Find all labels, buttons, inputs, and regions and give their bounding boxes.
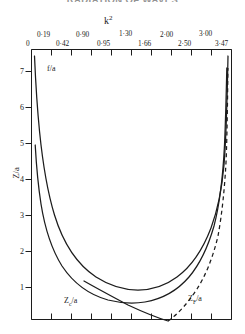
curve-zf-a xyxy=(168,68,228,321)
curve-zc-a-upper xyxy=(35,68,227,303)
curve-f-a xyxy=(35,56,229,290)
bottom-axis-ticks xyxy=(32,314,232,320)
axis-frame xyxy=(32,50,232,320)
figure-container: RADIATION OF WAVES k2 0·19 0·90 1·30 2·0… xyxy=(0,0,245,334)
left-axis-ticks xyxy=(26,72,32,288)
top-axis-ticks xyxy=(32,50,232,56)
plot-area xyxy=(0,0,245,334)
curve-zc-a-descending xyxy=(84,281,168,321)
data-curves xyxy=(35,56,229,321)
data-curves-dashed xyxy=(168,68,228,321)
